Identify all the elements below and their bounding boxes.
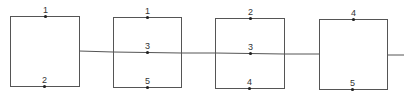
node-label: 1 [43, 5, 48, 15]
node-label: 2 [248, 7, 253, 17]
node-label: 1 [145, 6, 150, 16]
box-3: 234 [216, 7, 285, 91]
node-dot-icon [43, 85, 46, 88]
node-dot-icon [146, 51, 149, 54]
node-label: 3 [248, 42, 253, 52]
connection-wires [79, 51, 404, 55]
node-dot-icon [146, 16, 149, 19]
node-dot-icon [351, 88, 354, 91]
box-1: 12 [11, 5, 80, 89]
node-label: 3 [145, 41, 150, 51]
node-dot-icon [146, 86, 149, 89]
node-label: 5 [350, 78, 355, 88]
node-dot-icon [249, 52, 252, 55]
blocks: 1213523445 [11, 5, 388, 92]
node-dot-icon [352, 18, 355, 21]
box-2: 135 [114, 6, 182, 90]
node-label: 2 [42, 75, 47, 85]
node-dot-icon [44, 15, 47, 18]
node-label: 4 [247, 77, 252, 87]
node-dot-icon [249, 17, 252, 20]
wire-segment-1 [79, 51, 113, 52]
node-label: 5 [145, 76, 150, 86]
node-dot-icon [248, 87, 251, 90]
node-label: 4 [351, 8, 356, 18]
series-parallel-block-diagram: 1213523445 [0, 0, 413, 98]
box-4: 45 [320, 8, 388, 92]
